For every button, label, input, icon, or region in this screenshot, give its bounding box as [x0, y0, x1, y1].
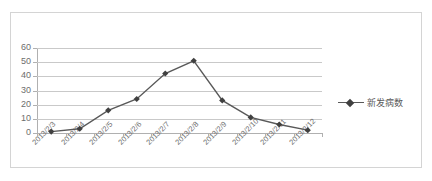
value-axis-tick [33, 105, 37, 106]
category-axis-tick [322, 134, 323, 137]
gridline [37, 48, 322, 49]
value-axis-tick-label: 30 [7, 86, 31, 95]
gridline [37, 91, 322, 92]
category-axis-tick [265, 134, 266, 137]
value-axis-tick-label: 10 [7, 114, 31, 123]
value-axis-tick-label: 40 [7, 71, 31, 80]
category-axis-tick [37, 134, 38, 137]
value-axis-tick [33, 76, 37, 77]
gridline [37, 105, 322, 106]
value-axis-tick-label: 50 [7, 57, 31, 66]
value-axis-tick-label: 20 [7, 100, 31, 109]
value-axis-tick-label: 60 [7, 43, 31, 52]
category-axis-tick [151, 134, 152, 137]
value-axis-tick [33, 119, 37, 120]
category-axis-tick [123, 134, 124, 137]
category-axis-tick [180, 134, 181, 137]
value-axis-tick [33, 62, 37, 63]
value-axis-tick [33, 48, 37, 49]
value-axis-labels: 0102030405060 [3, 0, 31, 181]
chart-legend: 新发病数 [338, 96, 403, 109]
value-axis-tick [33, 91, 37, 92]
gridline [37, 76, 322, 77]
category-axis-tick [66, 134, 67, 137]
legend-label-new-cases: 新发病数 [367, 96, 403, 109]
category-axis-tick [237, 134, 238, 137]
value-axis-tick-label: 0 [7, 128, 31, 137]
category-axis-tick [294, 134, 295, 137]
category-axis-tick [208, 134, 209, 137]
category-axis-tick [94, 134, 95, 137]
legend-marker-icon [338, 98, 364, 107]
gridline [37, 62, 322, 63]
